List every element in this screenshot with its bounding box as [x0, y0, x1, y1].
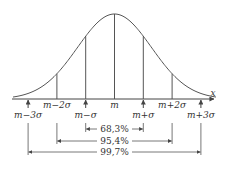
- tick-label-m-minus-2-sigma: m−2σ: [43, 100, 72, 110]
- interval-label: 95,4%: [100, 136, 129, 146]
- interval-brackets: 68,3%95,4%99,7%: [28, 123, 201, 157]
- interval-label: 68,3%: [100, 124, 129, 134]
- interval-1-sigma: 68,3%: [86, 123, 144, 134]
- tick-label-m-plus-sigma: m+σ: [132, 110, 155, 120]
- interval-label: 99,7%: [100, 147, 129, 157]
- axis-label-x: x: [210, 88, 215, 98]
- sigma-lines: [28, 14, 201, 108]
- tick-label-m: m: [110, 100, 119, 110]
- normal-distribution-diagram: m−3σm−2σm−σmm+σm+2σm+3σ x 68,3%95,4%99,7…: [0, 0, 229, 171]
- tick-label-m-plus-3-sigma: m+3σ: [187, 110, 216, 120]
- tick-labels: m−3σm−2σm−σmm+σm+2σm+3σ: [14, 100, 216, 120]
- tick-label-m-minus-sigma: m−σ: [75, 110, 98, 120]
- tick-label-m-minus-3-sigma: m−3σ: [14, 110, 43, 120]
- tick-label-m-plus-2-sigma: m+2σ: [158, 100, 187, 110]
